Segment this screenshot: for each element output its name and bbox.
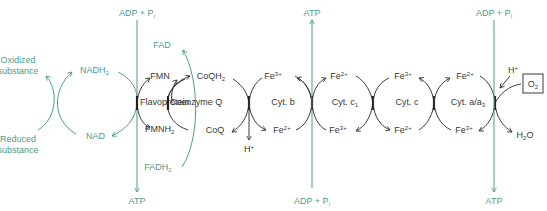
c-to-fe3-curve	[373, 78, 389, 103]
electron-transport-chain-diagram: Oxidized substance Reduced substance NAD…	[0, 0, 547, 211]
cyt-b-label: Cyt. b	[271, 97, 295, 107]
water-formation-arrow	[495, 103, 512, 132]
aa3-to-fe3-c-arrow	[419, 78, 434, 103]
fe2-plus-label-aa3-top: Fe2+	[456, 71, 474, 81]
cytochrome-b-stage: Fe3+ Cyt. b Fe2+	[249, 71, 312, 135]
fmnh2-label: FMNH2	[145, 124, 175, 135]
h-plus-label-2: H+	[508, 65, 519, 75]
fe3-plus-label-c-top: Fe3+	[394, 71, 412, 81]
fe3-plus-label-c1-bottom: Fe3+	[329, 125, 347, 135]
c1-to-fe2-arrow	[312, 78, 326, 103]
oxidized-substance-label-line2: substance	[0, 66, 39, 76]
c1-to-fe3-curve	[312, 103, 326, 130]
cyt-c1-label: Cyt. c1	[332, 97, 359, 108]
aa3-to-fe2-arrow	[434, 78, 450, 103]
flavoprotein-to-nad-arrow	[112, 103, 137, 136]
cyt-b-to-fe3-curve	[249, 78, 262, 103]
nad-label: NAD	[86, 131, 106, 141]
substrate-to-nadh2-arrow	[57, 72, 76, 134]
cyt-b-to-coq-arrow	[232, 103, 249, 132]
oxygen-input-curve	[495, 84, 521, 103]
fe2-c1-to-c-curve	[356, 76, 373, 103]
proton-input-arrow	[500, 76, 510, 88]
atp-label-2: ATP	[304, 8, 321, 18]
cytochrome-c-stage: Fe3+ Cyt. c Fe2+	[373, 71, 434, 135]
adp-pi-label-3: ADP + Pi	[476, 8, 512, 19]
fe3-b-arrow	[297, 78, 312, 103]
coenzyme-q-label: Coenzyme Q	[170, 97, 223, 107]
cyt-aa3-label: Cyt. a/a3	[451, 97, 486, 108]
fad-label: FAD	[153, 40, 171, 50]
fe2-c-to-aa3-curve	[419, 103, 434, 130]
cyt-b-to-fe2-arrow	[249, 103, 266, 130]
fadh2-label: FADH2	[144, 162, 172, 173]
cytochrome-c1-stage: Fe2+ Cyt. c1 Fe3+	[312, 71, 373, 135]
coqh2-label: CoQH2	[197, 71, 226, 82]
h-plus-label-1: H+	[244, 144, 255, 154]
fe2-b-from-c1-curve	[296, 103, 312, 130]
oxidized-substance-label-line1: Oxidized	[0, 55, 35, 65]
nadh2-to-flavoprotein-curve	[118, 72, 137, 103]
cyt-c-label: Cyt. c	[395, 97, 419, 107]
reduced-substance-label-line1: Reduced	[0, 134, 36, 144]
coqh2-to-cyt-b-curve	[233, 79, 249, 103]
fe3-b-to-c1-curve	[295, 76, 312, 103]
c-to-fe3-c1-arrow	[356, 103, 373, 131]
adp-pi-label-2: ADP + Pi	[294, 196, 330, 207]
fe2-plus-label-c-bottom: Fe2+	[394, 125, 412, 135]
fmn-label: FMN	[150, 71, 170, 81]
oxygen-label: O2	[528, 79, 539, 90]
coenzyme-q-stage: CoQH2 Coenzyme Q CoQ H+	[167, 71, 254, 154]
atp-label-3: ATP	[486, 196, 503, 206]
reduced-substance-label-line2: substance	[0, 145, 39, 155]
c-to-fe2-arrow	[373, 103, 390, 130]
substrate-stage: Oxidized substance Reduced substance NAD…	[0, 55, 137, 155]
nadh2-label: NADH2	[80, 65, 110, 76]
water-label: H2O	[517, 130, 534, 141]
atp-label-1: ATP	[129, 196, 146, 206]
reduced-to-oxidized-arrow	[38, 76, 54, 130]
fe3-plus-label-b-top: Fe3+	[264, 71, 282, 81]
fe3-plus-label-aa3-bottom: Fe3+	[455, 125, 473, 135]
cytochrome-aa3-stage: Fe2+ Cyt. a/a3 Fe3+ H+ O2 H2O	[434, 65, 543, 141]
fadh2-to-fad-arrow	[182, 50, 196, 167]
fe2-plus-label-c1-top: Fe2+	[330, 71, 348, 81]
fe2-plus-label-b-bottom: Fe2+	[273, 125, 291, 135]
aa3-to-fe3-curve	[434, 103, 451, 130]
fe2-aa3-to-oxygen-curve	[480, 76, 495, 103]
coq-label: CoQ	[206, 125, 225, 135]
adp-pi-label-1: ADP + Pi	[119, 8, 155, 19]
